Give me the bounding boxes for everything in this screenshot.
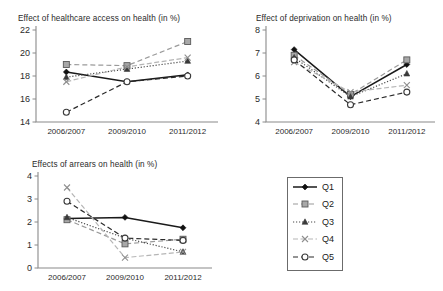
x-axis-tick-label: 2009/2010	[108, 127, 146, 136]
chart-svg-healthcare-access: 14161820222006/20072009/20102011/2012	[0, 4, 235, 152]
data-point-q5-0	[63, 109, 69, 115]
legend-item-q5[interactable]: Q5	[288, 248, 342, 266]
data-point-q4-2	[404, 82, 410, 88]
data-point-q5-1	[124, 79, 130, 85]
data-point-q5-1	[348, 102, 354, 108]
legend-marker-circle	[302, 254, 308, 260]
y-axis-tick-label: 7	[255, 48, 260, 58]
chart-panel-deprivation: Effect of deprivation on health (in %) 4…	[240, 4, 443, 152]
data-point-q5-2	[185, 73, 191, 79]
data-point-q2-2	[185, 39, 191, 45]
chart-title-arrears: Effects of arrears on health (in %)	[32, 160, 157, 169]
y-axis-tick-label: 8	[255, 25, 260, 35]
legend-item-q2[interactable]: Q2	[288, 196, 342, 214]
y-axis-tick-label: 4	[27, 171, 32, 181]
legend-label-q1: Q1	[322, 182, 334, 192]
chart-title-deprivation: Effect of deprivation on health (in %)	[256, 14, 392, 23]
legend-item-q3[interactable]: Q3	[288, 213, 342, 231]
data-point-q2-1	[122, 241, 128, 247]
data-point-q3-0	[63, 74, 69, 80]
data-point-q5-0	[64, 198, 70, 204]
data-point-q2-0	[63, 62, 69, 68]
x-axis-tick-label: 2006/2007	[47, 127, 85, 136]
chart-panel-healthcare-access: Effect of healthcare access on health (i…	[0, 4, 235, 152]
legend-item-q4[interactable]: Q4	[288, 231, 342, 249]
legend-swatch-q3	[292, 215, 318, 229]
legend-marker-square	[302, 201, 308, 207]
x-axis-tick-label: 2011/2012	[169, 127, 207, 136]
y-axis-tick-label: 16	[20, 94, 30, 104]
y-axis-tick-label: 14	[20, 117, 30, 127]
data-point-q5-2	[180, 237, 186, 243]
x-axis-tick-label: 2009/2010	[106, 273, 144, 282]
y-axis-tick-label: 20	[20, 48, 30, 58]
legend-marker-diamond	[302, 184, 308, 190]
legend-label-q3: Q3	[322, 217, 334, 227]
data-point-q1-1	[122, 215, 128, 221]
legend-swatch-q1	[292, 180, 318, 194]
data-point-q5-0	[291, 57, 297, 63]
legend-label-q2: Q2	[322, 199, 334, 209]
x-axis-tick-label: 2011/2012	[164, 273, 202, 282]
y-axis-tick-label: 3	[27, 194, 32, 204]
chart-title-healthcare-access: Effect of healthcare access on health (i…	[18, 14, 180, 23]
y-axis-tick-label: 2	[27, 217, 32, 227]
series-legend: Q1Q2Q3Q4Q5	[287, 177, 343, 271]
y-axis-tick-label: 22	[20, 25, 30, 35]
legend-swatch-q2	[292, 197, 318, 211]
legend-label-q4: Q4	[322, 234, 334, 244]
y-axis-tick-label: 6	[255, 71, 260, 81]
y-axis-tick-label: 5	[255, 94, 260, 104]
legend-item-q1[interactable]: Q1	[288, 178, 342, 196]
data-point-q3-2	[185, 58, 191, 64]
x-axis-tick-label: 2006/2007	[275, 127, 313, 136]
series-line-q2	[66, 42, 187, 66]
legend-swatch-q4	[292, 232, 318, 246]
y-axis-tick-label: 0	[27, 263, 32, 273]
chart-panel-arrears: Effects of arrears on health (in %) 0123…	[16, 156, 241, 291]
legend-swatch-q5	[292, 250, 318, 264]
chart-svg-arrears: 012342006/20072009/20102011/2012	[16, 156, 241, 291]
data-point-q1-2	[180, 225, 186, 231]
legend-label-q5: Q5	[322, 252, 334, 262]
series-line-q1	[294, 50, 407, 97]
y-axis-tick-label: 18	[20, 71, 30, 81]
data-point-q5-1	[122, 235, 128, 241]
data-point-q2-2	[404, 57, 410, 63]
data-point-q3-2	[404, 71, 410, 77]
chart-svg-deprivation: 456782006/20072009/20102011/2012	[240, 4, 443, 152]
x-axis-tick-label: 2009/2010	[332, 127, 370, 136]
y-axis-tick-label: 4	[255, 117, 260, 127]
data-point-q5-2	[404, 89, 410, 95]
data-point-q4-0	[64, 185, 70, 191]
y-axis-tick-label: 1	[27, 240, 32, 250]
x-axis-tick-label: 2011/2012	[388, 127, 426, 136]
x-axis-tick-label: 2006/2007	[48, 273, 86, 282]
